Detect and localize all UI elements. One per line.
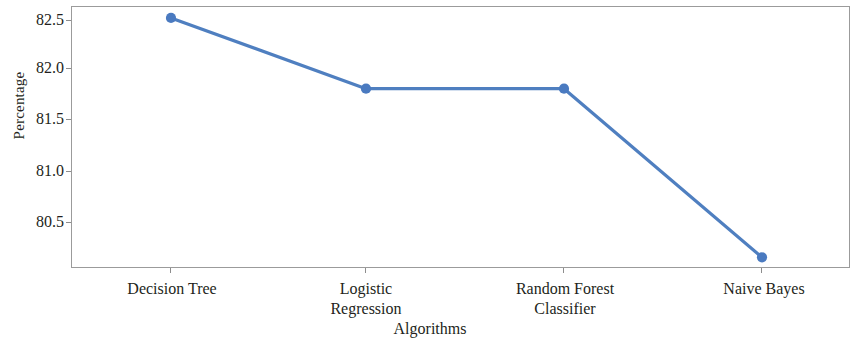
series-plot — [72, 7, 851, 269]
x-category-label-line1: Decision Tree — [127, 280, 216, 297]
y-tick-label: 81.0 — [12, 163, 64, 179]
x-category-label-line1: Random Forest — [516, 280, 614, 297]
data-point-marker — [166, 13, 176, 23]
x-axis-title-text: Algorithms — [394, 320, 467, 337]
x-category-label-naive-bayes: Naive Bayes — [674, 279, 854, 299]
data-point-marker — [361, 84, 371, 94]
data-point-marker — [559, 84, 569, 94]
y-axis-tick-labels: 82.5 82.0 81.5 81.0 80.5 — [6, 0, 64, 345]
series-line-percentage — [171, 18, 762, 257]
x-tick-mark — [563, 268, 564, 273]
y-tick-label: 82.5 — [12, 12, 64, 28]
plot-area — [71, 6, 850, 268]
x-category-label-line1: Logistic — [340, 280, 392, 297]
x-category-label-line2: Regression — [276, 299, 456, 319]
x-category-label-logistic-regression: Logistic Regression — [276, 279, 456, 319]
x-tick-mark — [761, 268, 762, 273]
y-tick-label: 80.5 — [12, 214, 64, 230]
x-tick-mark — [170, 268, 171, 273]
data-point-marker — [757, 252, 767, 262]
x-category-label-random-forest-classifier: Random Forest Classifier — [475, 279, 655, 319]
y-tick-label: 82.0 — [12, 60, 64, 76]
x-category-label-line1: Naive Bayes — [723, 280, 804, 297]
line-chart-figure: Percentage 82.5 82.0 81.5 81.0 80.5 Deci… — [0, 0, 862, 345]
y-tick-label: 81.5 — [12, 111, 64, 127]
x-category-label-decision-tree: Decision Tree — [82, 279, 262, 299]
x-axis-title: Algorithms — [0, 320, 862, 338]
x-category-label-line2: Classifier — [475, 299, 655, 319]
x-tick-mark — [365, 268, 366, 273]
